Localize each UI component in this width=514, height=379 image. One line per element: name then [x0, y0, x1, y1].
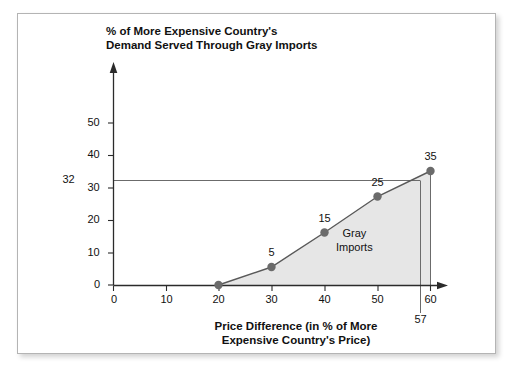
x-tick-label-20: 20: [208, 293, 229, 305]
x-axis-arrow: [437, 282, 448, 290]
x-axis-title-line2: Expensive Country's Price): [222, 334, 370, 346]
y-axis-arrow: [110, 62, 118, 73]
y-tick-label-20: 20: [83, 213, 104, 225]
data-point-30: [267, 263, 275, 271]
x-tick-label-60: 60: [420, 293, 441, 305]
data-point-20: [214, 281, 222, 289]
gray-imports-label: GrayImports: [336, 226, 373, 254]
y-tick-label-30: 30: [83, 181, 104, 193]
y-tick-label-50: 50: [83, 116, 104, 128]
x-tick-label-0: 0: [106, 293, 122, 305]
data-point-label-15: 15: [314, 212, 335, 224]
data-point-label-35: 35: [420, 150, 441, 162]
x-tick-label-30: 30: [261, 293, 282, 305]
figure-root: % of More Expensive Country'sDemand Serv…: [0, 0, 514, 379]
data-point-label-5: 5: [261, 246, 282, 258]
gray-imports-label-line2: Imports: [336, 241, 373, 253]
data-point-40: [320, 228, 328, 236]
x-tick-label-10: 10: [156, 293, 177, 305]
y-tick-label-40: 40: [83, 148, 104, 160]
x-tick-label-40: 40: [314, 293, 335, 305]
y-axis-ticks: [108, 123, 114, 285]
x-tick-label-50: 50: [367, 293, 388, 305]
data-point-50: [373, 192, 381, 200]
x-axis-ticks: [114, 286, 431, 292]
x-axis-title: Price Difference (in % of MoreExpensive …: [186, 319, 406, 347]
gray-imports-label-line1: Gray: [342, 227, 366, 239]
reference-label-57: 57: [410, 313, 431, 325]
y-tick-label-0: 0: [90, 278, 104, 290]
data-point-label-25: 25: [367, 176, 388, 188]
data-point-60: [426, 167, 434, 175]
reference-label-32: 32: [58, 173, 79, 185]
y-tick-label-10: 10: [83, 246, 104, 258]
x-axis-title-line1: Price Difference (in % of More: [215, 320, 378, 332]
gray-imports-area: [219, 171, 431, 285]
